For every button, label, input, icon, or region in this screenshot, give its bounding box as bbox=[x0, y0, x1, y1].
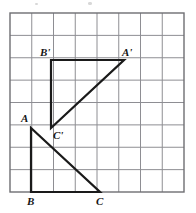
vertex-label-b: B bbox=[27, 196, 34, 207]
vertex-label-b-prime: B' bbox=[40, 47, 50, 58]
vertex-label-a-prime: A' bbox=[122, 47, 132, 58]
geometry-canvas bbox=[0, 0, 196, 213]
vertex-label-c-prime: C' bbox=[53, 130, 63, 141]
scan-speck-center bbox=[88, 2, 92, 5]
vertex-label-c: C bbox=[96, 196, 103, 207]
grid-lines bbox=[10, 13, 184, 192]
geometry-figure: B' A' C' A B C bbox=[0, 0, 196, 213]
scan-speck-left bbox=[35, 3, 38, 5]
vertex-label-a: A bbox=[21, 113, 28, 124]
